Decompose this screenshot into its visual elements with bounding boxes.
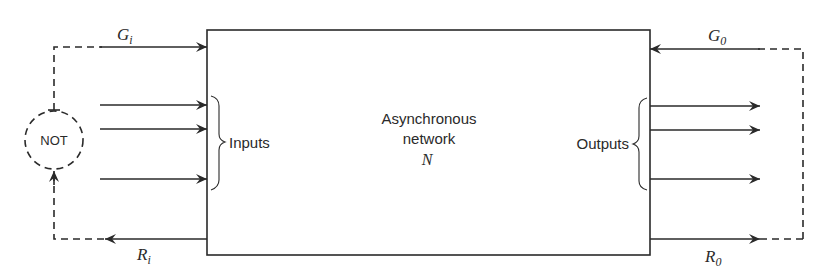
request-in-dashed-path — [54, 172, 104, 239]
block-diagram: Asynchronous network N Gi NOT Inputs — [0, 0, 829, 273]
network-symbol: N — [421, 151, 434, 168]
grant-out-dashed-path — [758, 49, 803, 239]
request-in-signal: Ri — [54, 171, 207, 267]
diagram-canvas: Asynchronous network N Gi NOT Inputs — [0, 0, 829, 273]
network-label-line1: Asynchronous — [381, 110, 476, 127]
grant-in-signal: Gi — [48, 25, 207, 110]
outputs-label: Outputs — [576, 135, 629, 152]
not-inverter: NOT — [25, 111, 83, 169]
grant-out-label: G0 — [708, 26, 726, 48]
output-arrows — [650, 106, 760, 179]
inputs-label: Inputs — [229, 134, 270, 151]
not-label: NOT — [40, 133, 68, 148]
grant-in-label: Gi — [117, 25, 133, 47]
request-out-signal: R0 — [650, 239, 803, 269]
inputs-brace — [211, 96, 225, 190]
request-in-label: Ri — [136, 245, 151, 267]
grant-out-signal: G0 — [650, 26, 803, 239]
outputs-brace — [633, 98, 647, 190]
request-out-label: R0 — [704, 247, 721, 269]
network-label-line2: network — [403, 130, 456, 147]
grant-in-dashed-path — [54, 47, 102, 110]
input-arrows — [100, 105, 207, 179]
